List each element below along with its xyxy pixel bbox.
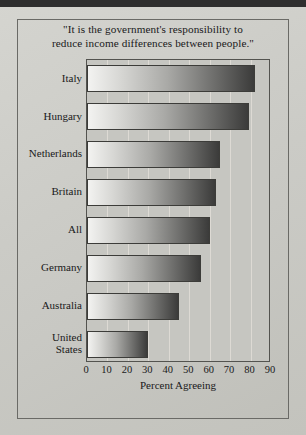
bar-series (87, 60, 269, 361)
x-tick-label: 80 (244, 364, 255, 376)
category-label-line: Britain (20, 185, 82, 198)
category-label-all: All (20, 223, 82, 236)
category-label-united-states: UnitedStates (20, 331, 82, 356)
bar-row (87, 331, 271, 358)
bar-netherlands (87, 141, 220, 168)
category-axis-labels: ItalyHungaryNetherlandsBritainAllGermany… (20, 59, 82, 362)
chart-figure: "It is the government's responsibility t… (0, 0, 306, 435)
category-label-netherlands: Netherlands (20, 147, 82, 160)
x-tick-label: 60 (203, 364, 214, 376)
category-label-line: Hungary (20, 110, 82, 123)
category-label-hungary: Hungary (20, 110, 82, 123)
top-border-strip (0, 0, 306, 7)
x-tick-label: 0 (83, 364, 88, 376)
plot-area (86, 59, 270, 362)
bar-row (87, 141, 271, 168)
bar-britain (87, 179, 216, 206)
x-tick-label: 30 (142, 364, 153, 376)
x-tick-label: 40 (163, 364, 174, 376)
x-tick-label: 70 (224, 364, 235, 376)
x-tick-label: 50 (183, 364, 194, 376)
x-tick-label: 10 (101, 364, 112, 376)
category-label-italy: Italy (20, 72, 82, 85)
x-tick-label: 20 (122, 364, 133, 376)
bar-row (87, 293, 271, 320)
bar-hungary (87, 103, 249, 130)
category-label-line: Australia (20, 299, 82, 312)
category-label-germany: Germany (20, 261, 82, 274)
category-label-line: States (20, 343, 82, 356)
bar-united-states (87, 331, 148, 358)
category-label-australia: Australia (20, 299, 82, 312)
category-label-line: Germany (20, 261, 82, 274)
bar-row (87, 255, 271, 282)
bar-row (87, 179, 271, 206)
category-label-line: All (20, 223, 82, 236)
x-tick-label: 90 (265, 364, 276, 376)
bar-row (87, 103, 271, 130)
bar-all (87, 217, 210, 244)
bar-australia (87, 293, 179, 320)
category-label-line: Italy (20, 72, 82, 85)
bar-row (87, 65, 271, 92)
bar-row (87, 217, 271, 244)
bar-germany (87, 255, 201, 282)
x-axis-label: Percent Agreeing (60, 379, 296, 391)
chart-title-line-1: "It is the government's responsibility t… (22, 23, 284, 37)
x-axis-tick-labels: 0102030405060708090 (86, 364, 270, 378)
bar-italy (87, 65, 255, 92)
chart-title: "It is the government's responsibility t… (22, 23, 284, 50)
category-label-britain: Britain (20, 185, 82, 198)
category-label-line: United (20, 331, 82, 344)
category-label-line: Netherlands (20, 147, 82, 160)
chart-title-line-2: reduce income differences between people… (22, 37, 284, 51)
